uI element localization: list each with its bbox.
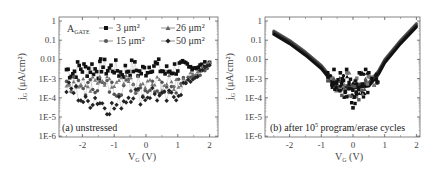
x-tick-label: 1 (382, 140, 387, 150)
panel-annotation-b: (b) after 105 program/erase cycles (270, 122, 405, 134)
x-axis-title-b: VG (V) (335, 151, 363, 163)
y-tick-label: 1 (52, 16, 57, 26)
y-tick-label: 1E-3 (245, 74, 263, 84)
x-tick-label: 0 (351, 140, 356, 150)
x-axis-title-a: VG (V) (128, 151, 156, 163)
x-tick-label: -1 (110, 140, 118, 150)
y-tick-label: 0.01 (246, 54, 262, 64)
y-tick-label: 1E-5 (245, 112, 263, 122)
y-tick-label: 1E-4 (245, 93, 263, 103)
y-tick-label: 1E-3 (39, 74, 57, 84)
x-tick-label: 0 (144, 140, 149, 150)
circle-marker-icon (104, 39, 108, 43)
y-tick-label: 1 (258, 16, 263, 26)
panel-a: 10.10.011E-31E-41E-51E-6 -2-1012 AGATE 3… (16, 16, 218, 163)
x-tick-label: 2 (414, 140, 419, 150)
y-tick-label: 0.01 (40, 54, 56, 64)
y-tick-label: 1E-6 (39, 131, 57, 141)
y-tick-label: 1E-4 (39, 93, 57, 103)
y-tick-label: 1E-5 (39, 112, 57, 122)
x-tick-label: -2 (79, 140, 87, 150)
svg-text:3 μm²: 3 μm² (116, 22, 140, 33)
x-tick-label: -2 (286, 140, 294, 150)
panel-annotation-a: (a) unstressed (62, 122, 117, 134)
x-tick-label: 2 (207, 140, 212, 150)
svg-text:50 μm²: 50 μm² (176, 35, 205, 46)
svg-text:26 μm²: 26 μm² (176, 22, 205, 33)
panel-b: 10.10.011E-31E-41E-51E-6 -2-1012 (b) aft… (224, 16, 420, 163)
svg-text:15 μm²: 15 μm² (116, 35, 145, 46)
x-tick-label: 1 (176, 140, 181, 150)
y-tick-label: 0.1 (45, 35, 56, 45)
y-axis-title-b: jG (μA/cm²) (224, 53, 236, 101)
y-tick-label: 1E-6 (245, 131, 263, 141)
x-tick-label: -1 (318, 140, 326, 150)
y-tick-label: 0.1 (251, 35, 262, 45)
y-axis-title-a: jG (μA/cm²) (16, 53, 28, 101)
square-marker-icon (104, 26, 108, 30)
